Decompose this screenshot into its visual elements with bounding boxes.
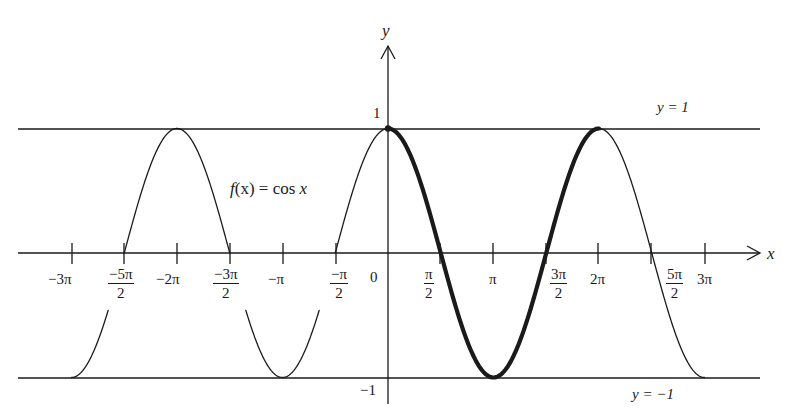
x-tick-label-mpi: −π [268,272,284,287]
x-axis-label: x [767,245,775,262]
fraction-denominator: 2 [117,284,125,301]
y-tick-minus-1: −1 [360,383,376,398]
fraction-numerator: 5π [666,267,683,284]
cosine-plot [0,0,790,420]
fraction-numerator: −3π [213,267,239,284]
cosine-curve-thin [124,129,230,254]
cosine-curve-thin [335,129,388,254]
origin-label: 0 [370,270,378,285]
line-label-y-equals-1: y = 1 [657,100,689,115]
function-expression: (x) = cos [235,179,300,198]
fraction-denominator: 2 [425,284,433,301]
fraction-numerator: 3π [550,267,567,284]
x-tick-label-m3pi: −3π [48,272,72,287]
fraction-numerator: π [424,267,434,284]
x-tick-label-2pi: 2π [590,272,605,287]
y-axis-label: y [382,22,390,39]
fraction-denominator: 2 [222,284,230,301]
fraction-numerator: −π [330,267,348,284]
fraction-denominator: 2 [671,284,679,301]
x-tick-label-m2pi: −2π [156,272,180,287]
x-tick-label-pi2: π 2 [424,267,434,301]
line-label-y-equals-minus-1: y = −1 [632,387,674,402]
function-variable: x [300,179,308,198]
fraction-denominator: 2 [555,284,563,301]
point-0-1 [385,125,391,131]
fraction-denominator: 2 [335,284,343,301]
cosine-curve-thin [246,310,319,377]
x-tick-label-m5pi2: −5π 2 [108,267,134,301]
x-tick-label-m3pi2: −3π 2 [213,267,239,301]
x-tick-label-mpi2: −π 2 [330,267,348,301]
fraction-numerator: −5π [108,267,134,284]
cosine-curve-thin [72,310,109,377]
x-tick-label-3pi2: 3π 2 [550,267,567,301]
x-tick-label-3pi: 3π [697,272,712,287]
y-tick-1: 1 [373,106,381,121]
x-tick-label-5pi2: 5π 2 [666,267,683,301]
x-tick-label-pi: π [489,272,497,287]
function-label: f(x) = cos x [230,180,307,197]
